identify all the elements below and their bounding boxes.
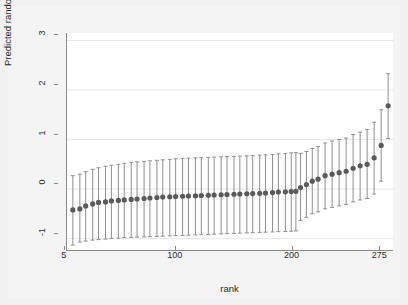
data-point-marker	[134, 196, 139, 201]
y-tick-label: 2	[37, 73, 47, 93]
y-tick-label: -1	[37, 222, 47, 242]
data-point-marker	[231, 192, 236, 197]
data-point-marker	[141, 196, 146, 201]
y-tick-label: 1	[37, 123, 47, 143]
x-tick-mark	[292, 246, 293, 250]
data-point-marker	[186, 193, 191, 198]
data-point-marker	[147, 195, 152, 200]
y-tick-label: 3	[37, 23, 47, 43]
data-point-marker	[96, 200, 101, 205]
data-point-marker	[257, 191, 262, 196]
x-axis-title: rank	[66, 283, 393, 294]
data-point-marker	[237, 191, 242, 196]
chart-svg	[67, 33, 394, 251]
data-point-marker	[365, 162, 370, 167]
data-point-marker	[270, 190, 275, 195]
data-point-marker	[109, 198, 114, 203]
data-point-marker	[206, 193, 211, 198]
x-tick-mark	[64, 246, 65, 250]
data-point-marker	[310, 179, 315, 184]
data-point-marker	[219, 192, 224, 197]
data-point-marker	[304, 182, 309, 187]
data-point-marker	[289, 189, 294, 194]
data-point-marker	[276, 189, 281, 194]
data-point-marker	[90, 201, 95, 206]
y-tick-mark	[54, 84, 58, 85]
data-point-marker	[322, 173, 327, 178]
data-point-marker	[298, 185, 303, 190]
x-tick-mark	[379, 246, 380, 250]
data-point-marker	[154, 195, 159, 200]
data-point-marker	[263, 190, 268, 195]
data-point-marker	[212, 192, 217, 197]
data-point-marker	[379, 143, 384, 148]
plot-region	[66, 33, 393, 251]
data-point-marker	[283, 189, 288, 194]
data-point-marker	[173, 194, 178, 199]
y-tick-mark	[54, 134, 58, 135]
data-point-marker	[224, 192, 229, 197]
x-tick-label: 5	[44, 250, 84, 260]
graph-canvas: Predicted random intercept -10123 510020…	[8, 6, 400, 298]
data-point-marker	[330, 172, 335, 177]
data-point-marker	[129, 197, 134, 202]
data-point-marker	[70, 207, 75, 212]
y-tick-mark	[54, 183, 58, 184]
data-point-marker	[244, 191, 249, 196]
y-tick-mark	[54, 233, 58, 234]
data-point-marker	[193, 193, 198, 198]
data-point-marker	[180, 194, 185, 199]
data-point-marker	[103, 199, 108, 204]
x-tick-label: 275	[359, 250, 399, 260]
y-tick-mark	[54, 34, 58, 35]
data-point-marker	[358, 163, 363, 168]
y-axis-title: Predicted random intercept	[2, 0, 13, 66]
data-point-marker	[250, 191, 255, 196]
data-point-marker	[199, 193, 204, 198]
data-point-marker	[351, 166, 356, 171]
data-point-marker	[77, 206, 82, 211]
data-point-marker	[167, 194, 172, 199]
data-point-marker	[83, 203, 88, 208]
data-point-marker	[337, 170, 342, 175]
data-point-marker	[315, 177, 320, 182]
y-tick-label: 0	[37, 172, 47, 192]
data-point-marker	[344, 169, 349, 174]
data-point-marker	[293, 189, 298, 194]
x-tick-label: 200	[272, 250, 312, 260]
x-tick-mark	[175, 246, 176, 250]
data-point-marker	[386, 103, 391, 108]
screenshot-root: Predicted random intercept -10123 510020…	[0, 0, 408, 305]
x-tick-label: 100	[155, 250, 195, 260]
data-point-marker	[116, 198, 121, 203]
data-point-marker	[160, 194, 165, 199]
data-point-marker	[372, 155, 377, 160]
data-point-marker	[122, 197, 127, 202]
